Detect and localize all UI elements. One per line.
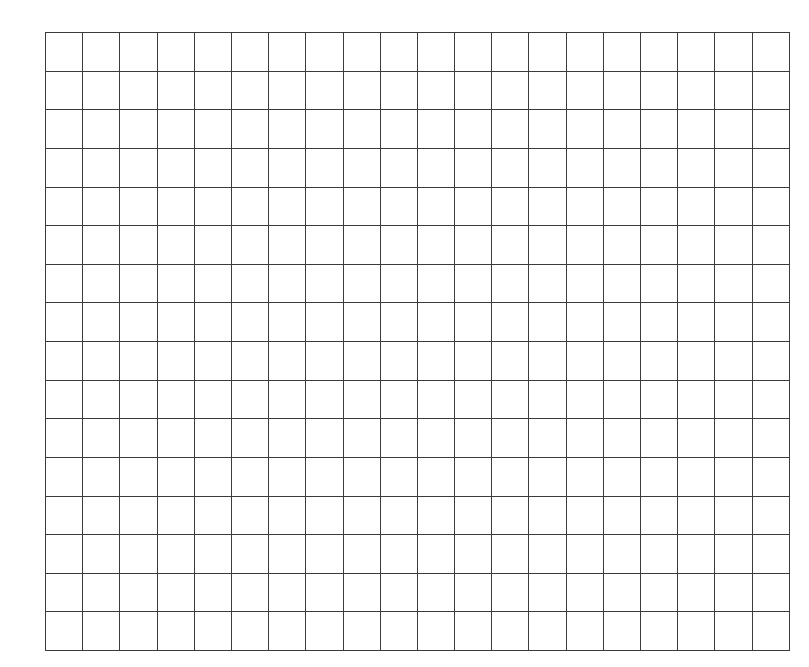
grid-cell[interactable] (157, 612, 194, 651)
grid-cell[interactable] (83, 303, 120, 342)
grid-cell[interactable] (83, 187, 120, 226)
grid-cell[interactable] (83, 264, 120, 303)
grid-cell[interactable] (46, 187, 83, 226)
grid-cell[interactable] (380, 33, 417, 72)
grid-cell[interactable] (306, 535, 343, 574)
grid-cell[interactable] (603, 71, 640, 110)
grid-cell[interactable] (46, 303, 83, 342)
grid-cell[interactable] (194, 535, 231, 574)
grid-cell[interactable] (231, 419, 268, 458)
grid-cell[interactable] (715, 380, 752, 419)
grid-cell[interactable] (380, 110, 417, 149)
grid-cell[interactable] (269, 535, 306, 574)
grid-cell[interactable] (343, 342, 380, 381)
grid-cell[interactable] (120, 342, 157, 381)
grid-cell[interactable] (194, 148, 231, 187)
grid-cell[interactable] (231, 612, 268, 651)
grid-cell[interactable] (231, 303, 268, 342)
grid-cell[interactable] (752, 187, 789, 226)
grid-cell[interactable] (641, 187, 678, 226)
grid-cell[interactable] (231, 33, 268, 72)
grid-cell[interactable] (455, 226, 492, 265)
grid-cell[interactable] (269, 303, 306, 342)
grid-cell[interactable] (120, 187, 157, 226)
grid-cell[interactable] (492, 573, 529, 612)
grid-cell[interactable] (529, 33, 566, 72)
grid-cell[interactable] (715, 226, 752, 265)
grid-cell[interactable] (231, 573, 268, 612)
grid-cell[interactable] (157, 187, 194, 226)
grid-cell[interactable] (120, 110, 157, 149)
grid-cell[interactable] (678, 33, 715, 72)
grid-cell[interactable] (715, 573, 752, 612)
grid-cell[interactable] (194, 264, 231, 303)
grid-cell[interactable] (678, 264, 715, 303)
grid-cell[interactable] (343, 535, 380, 574)
grid-cell[interactable] (231, 71, 268, 110)
grid-cell[interactable] (231, 264, 268, 303)
grid-cell[interactable] (492, 457, 529, 496)
grid-cell[interactable] (603, 496, 640, 535)
grid-cell[interactable] (46, 110, 83, 149)
grid-cell[interactable] (343, 110, 380, 149)
grid-cell[interactable] (566, 303, 603, 342)
grid-cell[interactable] (715, 457, 752, 496)
grid-cell[interactable] (455, 187, 492, 226)
grid-cell[interactable] (120, 535, 157, 574)
grid-cell[interactable] (455, 573, 492, 612)
grid-cell[interactable] (529, 148, 566, 187)
grid-cell[interactable] (603, 110, 640, 149)
grid-cell[interactable] (529, 612, 566, 651)
grid-cell[interactable] (194, 110, 231, 149)
grid-cell[interactable] (678, 380, 715, 419)
grid-cell[interactable] (157, 380, 194, 419)
grid-cell[interactable] (641, 535, 678, 574)
grid-cell[interactable] (120, 612, 157, 651)
grid-cell[interactable] (120, 380, 157, 419)
grid-cell[interactable] (752, 496, 789, 535)
grid-cell[interactable] (343, 573, 380, 612)
grid-cell[interactable] (343, 148, 380, 187)
grid-cell[interactable] (455, 33, 492, 72)
grid-cell[interactable] (566, 612, 603, 651)
grid-cell[interactable] (46, 535, 83, 574)
grid-cell[interactable] (269, 496, 306, 535)
grid-cell[interactable] (715, 33, 752, 72)
grid-cell[interactable] (603, 148, 640, 187)
grid-cell[interactable] (157, 457, 194, 496)
grid-cell[interactable] (194, 496, 231, 535)
grid-cell[interactable] (715, 148, 752, 187)
grid-cell[interactable] (752, 148, 789, 187)
grid-cell[interactable] (455, 148, 492, 187)
grid-cell[interactable] (678, 457, 715, 496)
grid-cell[interactable] (678, 187, 715, 226)
grid-cell[interactable] (678, 110, 715, 149)
grid-cell[interactable] (269, 573, 306, 612)
grid-cell[interactable] (678, 71, 715, 110)
grid-cell[interactable] (603, 380, 640, 419)
grid-cell[interactable] (603, 612, 640, 651)
grid-cell[interactable] (678, 573, 715, 612)
grid-cell[interactable] (529, 71, 566, 110)
grid-cell[interactable] (306, 612, 343, 651)
grid-cell[interactable] (380, 148, 417, 187)
grid-cell[interactable] (157, 110, 194, 149)
grid-cell[interactable] (194, 573, 231, 612)
grid-cell[interactable] (83, 535, 120, 574)
grid-cell[interactable] (455, 71, 492, 110)
grid-cell[interactable] (380, 303, 417, 342)
grid-cell[interactable] (380, 71, 417, 110)
grid-cell[interactable] (603, 187, 640, 226)
grid-cell[interactable] (269, 612, 306, 651)
grid-cell[interactable] (380, 226, 417, 265)
grid-cell[interactable] (231, 110, 268, 149)
grid-cell[interactable] (752, 264, 789, 303)
grid-cell[interactable] (529, 264, 566, 303)
grid-cell[interactable] (194, 380, 231, 419)
grid-cell[interactable] (46, 226, 83, 265)
grid-cell[interactable] (157, 71, 194, 110)
grid-cell[interactable] (306, 264, 343, 303)
grid-cell[interactable] (231, 496, 268, 535)
grid-cell[interactable] (343, 496, 380, 535)
grid-cell[interactable] (715, 535, 752, 574)
